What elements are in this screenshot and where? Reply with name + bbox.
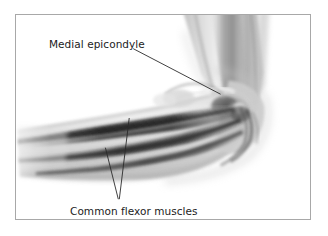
- label-common-flexor-muscles: Common flexor muscles: [70, 206, 198, 217]
- figure-frame: Medial epicondyle Common flexor muscles: [15, 14, 311, 220]
- label-medial-epicondyle: Medial epicondyle: [49, 39, 145, 50]
- illustration-figure: Medial epicondyle Common flexor muscles: [0, 0, 328, 236]
